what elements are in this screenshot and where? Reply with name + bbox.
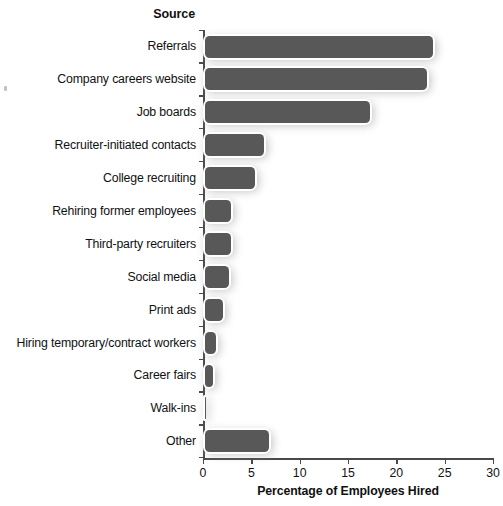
value-axis-tick-label: 0 (183, 466, 223, 480)
category-axis-title: Source (0, 7, 195, 21)
bar (203, 165, 257, 191)
page-edge-artifact (4, 86, 7, 91)
value-axis-tick-label: 10 (280, 466, 320, 480)
category-axis-tick (199, 260, 204, 261)
category-axis-tick (199, 359, 204, 360)
bar (203, 34, 435, 60)
bar (203, 330, 218, 356)
bar (203, 363, 215, 389)
category-label: Social media (0, 270, 196, 284)
category-axis-tick (199, 293, 204, 294)
value-axis-tick (251, 458, 252, 464)
bar (203, 66, 429, 92)
bar-chart: Source ReferralsCompany careers websiteJ… (0, 0, 503, 506)
bar-fill (205, 365, 213, 387)
bar-fill (205, 68, 427, 90)
value-axis-title: Percentage of Employees Hired (203, 484, 493, 498)
bar (203, 264, 231, 290)
category-label: Walk-ins (0, 401, 196, 415)
value-axis-tick (493, 458, 494, 464)
value-axis-tick-label: 20 (376, 466, 416, 480)
bar (203, 297, 225, 323)
category-axis-tick (199, 227, 204, 228)
bar (203, 132, 266, 158)
value-axis-tick-label: 5 (231, 466, 271, 480)
bar-fill (205, 266, 229, 288)
bar-fill (205, 101, 370, 123)
category-label: Rehiring former employees (0, 204, 196, 218)
category-label: Other (0, 434, 196, 448)
category-axis-tick (199, 326, 204, 327)
bar-fill (205, 233, 231, 255)
bar-fill (205, 397, 206, 419)
category-label: Referrals (0, 39, 196, 53)
bar (203, 231, 233, 257)
value-axis-tick (348, 458, 349, 464)
value-axis-tick-label: 30 (473, 466, 503, 480)
category-axis-tick (199, 62, 204, 63)
bar-fill (205, 299, 223, 321)
bar-fill (205, 36, 433, 58)
category-label: Hiring temporary/contract workers (0, 336, 196, 350)
category-label: Job boards (0, 105, 196, 119)
category-axis-tick (199, 30, 204, 31)
category-axis-tick (199, 424, 204, 425)
category-label: Career fairs (0, 368, 196, 382)
value-axis-tick (396, 458, 397, 464)
category-label: Recruiter-initiated contacts (0, 138, 196, 152)
category-label: Print ads (0, 303, 196, 317)
bar-fill (205, 332, 216, 354)
value-axis-tick (445, 458, 446, 464)
value-axis-tick-label: 25 (425, 466, 465, 480)
bar (203, 198, 233, 224)
category-label: Company careers website (0, 72, 196, 86)
category-axis-tick (199, 128, 204, 129)
bar (203, 428, 271, 454)
category-axis-tick (199, 391, 204, 392)
category-axis-tick (199, 95, 204, 96)
category-axis-tick (199, 194, 204, 195)
bar (203, 395, 206, 421)
category-axis-tick (199, 161, 204, 162)
value-axis-tick (300, 458, 301, 464)
category-label: Third-party recruiters (0, 237, 196, 251)
category-label: College recruiting (0, 171, 196, 185)
bar-fill (205, 134, 264, 156)
value-axis-tick-label: 15 (328, 466, 368, 480)
bar-fill (205, 167, 255, 189)
bar-fill (205, 430, 269, 452)
bar-fill (205, 200, 231, 222)
value-axis-tick (203, 458, 204, 464)
bar (203, 99, 372, 125)
